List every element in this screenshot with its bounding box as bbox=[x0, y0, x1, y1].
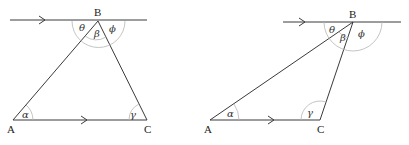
side-ab bbox=[210, 22, 353, 120]
angle-label-theta: θ bbox=[329, 24, 335, 35]
vertex-label-a: A bbox=[7, 123, 15, 135]
vertex-label-b: B bbox=[94, 6, 101, 18]
vertex-label-b: B bbox=[349, 8, 356, 20]
side-bc bbox=[320, 22, 353, 120]
angle-label-beta: β bbox=[339, 32, 346, 43]
geometry-figure: B A C θ β ϕ α γ B A C θ β ϕ α γ bbox=[0, 0, 409, 145]
angle-arc-gamma bbox=[301, 101, 326, 120]
diagram-left: B A C θ β ϕ α γ bbox=[7, 6, 151, 135]
angle-label-phi: ϕ bbox=[358, 28, 365, 39]
side-bc bbox=[98, 21, 147, 120]
angle-label-alpha: α bbox=[22, 109, 29, 120]
angle-label-gamma: γ bbox=[307, 107, 313, 118]
angle-label-gamma: γ bbox=[130, 109, 136, 120]
angle-label-phi: ϕ bbox=[109, 23, 116, 34]
angle-label-theta: θ bbox=[79, 22, 85, 33]
angle-label-beta: β bbox=[93, 28, 100, 39]
angle-arc-alpha bbox=[234, 104, 239, 120]
vertex-label-c: C bbox=[317, 123, 324, 135]
vertex-label-c: C bbox=[144, 123, 151, 135]
angle-label-alpha: α bbox=[227, 108, 234, 119]
vertex-label-a: A bbox=[204, 123, 212, 135]
diagram-right: B A C θ β ϕ α γ bbox=[204, 8, 401, 135]
